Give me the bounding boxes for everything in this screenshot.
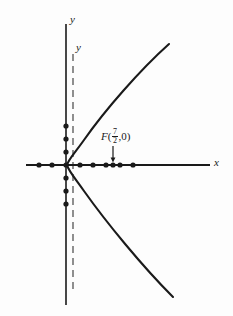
focus-label-open-paren: ( xyxy=(108,131,112,142)
x-axis-dot xyxy=(130,162,135,167)
x-axis-dot xyxy=(103,162,108,167)
x-axis-dot xyxy=(49,162,54,167)
focus-arrow-head xyxy=(111,157,116,162)
figure-canvas xyxy=(0,0,233,316)
x-axis-dot xyxy=(63,162,68,167)
y-axis-label: y xyxy=(70,14,75,25)
focus-point-label: F(72,0) xyxy=(101,128,130,146)
x-axis-dot xyxy=(77,162,82,167)
x-axis-dot xyxy=(90,162,95,167)
x-axis-dot xyxy=(36,162,41,167)
y-prime-axis-label: y xyxy=(76,42,81,53)
focus-pointer-arrow xyxy=(111,146,116,163)
parabola-curve xyxy=(67,44,173,297)
focus-fraction-numerator: 7 xyxy=(112,128,118,136)
y-axis-dot xyxy=(63,201,68,206)
x-axis-label: x xyxy=(214,157,219,168)
focus-point-dot xyxy=(110,162,115,167)
focus-label-close-paren: ) xyxy=(127,131,131,142)
y-axis-dot xyxy=(63,149,68,154)
x-axis-dot xyxy=(117,162,122,167)
focus-label-fraction: 72 xyxy=(112,128,118,146)
y-axis-dot xyxy=(63,188,68,193)
focus-fraction-denominator: 2 xyxy=(112,136,118,145)
y-axis-dot xyxy=(63,175,68,180)
parabola-figure: y y x F(72,0) xyxy=(0,0,233,316)
focus-label-prefix: F xyxy=(101,131,108,142)
y-axis-dot xyxy=(63,123,68,128)
y-axis-dot xyxy=(63,136,68,141)
